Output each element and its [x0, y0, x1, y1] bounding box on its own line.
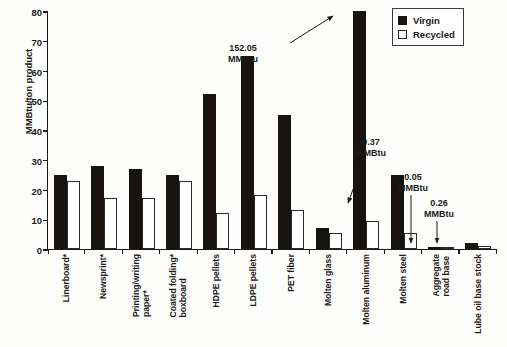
- x-axis-label-line1: Molten aluminum: [361, 254, 371, 325]
- y-tick-label-50: 50: [18, 96, 42, 107]
- bar-group: [160, 12, 197, 249]
- annotation-unit: MMBtu: [356, 148, 386, 158]
- bar-virgin: [54, 175, 67, 249]
- x-axis-label-line1: Molten steel: [398, 254, 408, 304]
- bar-recycled: [67, 181, 80, 249]
- bar-group: [123, 12, 160, 249]
- bar-recycled: [179, 181, 192, 249]
- bar-virgin: [316, 228, 329, 249]
- x-axis-label-cell: Coated folding*boxboard: [160, 252, 198, 347]
- bar-virgin: [241, 56, 254, 249]
- legend-swatch-recycled-icon: [398, 30, 407, 39]
- x-axis-label-line1: HDPE pellets: [211, 254, 221, 308]
- y-tick-label-60: 60: [18, 66, 42, 77]
- x-axis-label: Molten steel: [398, 254, 408, 304]
- x-axis-label-line1: Aggregate: [431, 254, 441, 297]
- bar-group: [460, 12, 497, 249]
- x-axis-label-line1: Molten glass: [323, 254, 333, 306]
- x-axis-label-line2: road base: [441, 254, 451, 297]
- annotation-value: 0.26: [430, 198, 448, 208]
- x-axis-label: Molten aluminum: [361, 254, 371, 325]
- x-axis-label: Lube oil base stock: [473, 254, 483, 334]
- bar-recycled: [104, 198, 117, 249]
- y-tick-label-40: 40: [18, 126, 42, 137]
- bar-recycled: [441, 247, 454, 249]
- bar-virgin: [353, 11, 366, 249]
- x-axis-label: Coated folding*boxboard: [168, 254, 188, 318]
- x-axis-label: LDPE pellets: [248, 254, 258, 307]
- x-axis-label-cell: Linerboard*: [47, 252, 85, 347]
- bar-group: [347, 12, 384, 249]
- x-axis-label-cell: HDPE pellets: [197, 252, 235, 347]
- bar-recycled: [291, 210, 304, 249]
- bar-chart: MMBtu/ton product 01020304050607080 Line…: [0, 0, 507, 347]
- x-axis-label-cell: Molten steel: [385, 252, 423, 347]
- x-axis-label: Aggregateroad base: [431, 254, 451, 297]
- bar-recycled: [254, 195, 267, 249]
- x-axis-label-line2: boxboard: [178, 254, 188, 318]
- bar-virgin: [278, 115, 291, 249]
- bar-recycled: [329, 233, 342, 249]
- x-axis-label-cell: Printing/writingpaper*: [122, 252, 160, 347]
- bar-group: [273, 12, 310, 249]
- x-axis-label-cell: Molten glass: [310, 252, 348, 347]
- legend-item-recycled: Recycled: [398, 27, 455, 41]
- annotation-value: 152.05: [229, 43, 257, 53]
- x-axis-label: Newsprint*: [98, 254, 108, 299]
- bar-group: [385, 12, 422, 249]
- y-tick-label-10: 10: [18, 215, 42, 226]
- bar-virgin: [203, 94, 216, 249]
- x-axis-label: Printing/writingpaper*: [131, 254, 151, 317]
- y-tick-label-80: 80: [18, 7, 42, 18]
- y-tick-label-20: 20: [18, 185, 42, 196]
- annotation-unit: MMBtu: [398, 183, 428, 193]
- x-axis-label-line1: Lube oil base stock: [473, 254, 483, 334]
- x-axis-label: PET fiber: [286, 254, 296, 292]
- x-axis-label-line1: Printing/writing: [131, 254, 141, 317]
- legend-swatch-virgin-icon: [398, 16, 407, 25]
- bar-recycled: [404, 233, 417, 249]
- annotation-value: 0.05: [404, 172, 422, 182]
- bar-group: [310, 12, 347, 249]
- bar-recycled: [366, 221, 379, 249]
- annotation-molten-aluminum-recycled: 9.37 MMBtu: [356, 137, 386, 159]
- bar-virgin: [91, 166, 104, 249]
- x-axis-label-cell: LDPE pellets: [235, 252, 273, 347]
- legend: Virgin Recycled: [392, 8, 464, 46]
- x-axis-label-cell: PET fiber: [272, 252, 310, 347]
- legend-item-virgin: Virgin: [398, 13, 455, 27]
- annotation-aggregate-road-base-virgin: 0.05 MMBtu: [398, 172, 428, 194]
- y-tick-label-70: 70: [18, 36, 42, 47]
- x-axis-label-line1: Coated folding*: [168, 254, 178, 318]
- x-axis-label-cell: Newsprint*: [85, 252, 123, 347]
- annotation-unit: MMBtu: [228, 54, 258, 64]
- x-axis-label-line1: PET fiber: [286, 254, 296, 292]
- x-axis-label: HDPE pellets: [211, 254, 221, 308]
- y-tick-label-30: 30: [18, 155, 42, 166]
- bar-virgin: [129, 169, 142, 249]
- bar-virgin: [428, 247, 441, 249]
- x-axis-label-cell: Molten aluminum: [347, 252, 385, 347]
- bar-recycled: [142, 198, 155, 249]
- x-axis-labels: Linerboard*Newsprint*Printing/writingpap…: [47, 252, 497, 347]
- bar-recycled: [478, 246, 491, 249]
- x-axis-label-line1: LDPE pellets: [248, 254, 258, 307]
- bar-group: [85, 12, 122, 249]
- bar-virgin: [166, 175, 179, 249]
- bar-recycled: [216, 213, 229, 249]
- annotation-molten-aluminum-virgin: 152.05 MMBtu: [228, 43, 258, 65]
- legend-label-recycled: Recycled: [413, 29, 455, 40]
- annotation-aggregate-road-base-recycled: 0.26 MMBtu: [424, 198, 454, 220]
- x-axis-label-line2: paper*: [141, 254, 151, 317]
- x-axis-label-line1: Linerboard*: [61, 254, 71, 302]
- bar-group: [48, 12, 85, 249]
- bar-virgin: [465, 243, 478, 249]
- x-axis-label: Molten glass: [323, 254, 333, 306]
- annotation-value: 9.37: [362, 137, 380, 147]
- x-axis-label-cell: Aggregateroad base: [422, 252, 460, 347]
- y-tick-label-0: 0: [18, 245, 42, 256]
- annotation-unit: MMBtu: [424, 209, 454, 219]
- x-axis-label-cell: Lube oil base stock: [460, 252, 498, 347]
- x-axis-label-line1: Newsprint*: [98, 254, 108, 299]
- x-axis-label: Linerboard*: [61, 254, 71, 302]
